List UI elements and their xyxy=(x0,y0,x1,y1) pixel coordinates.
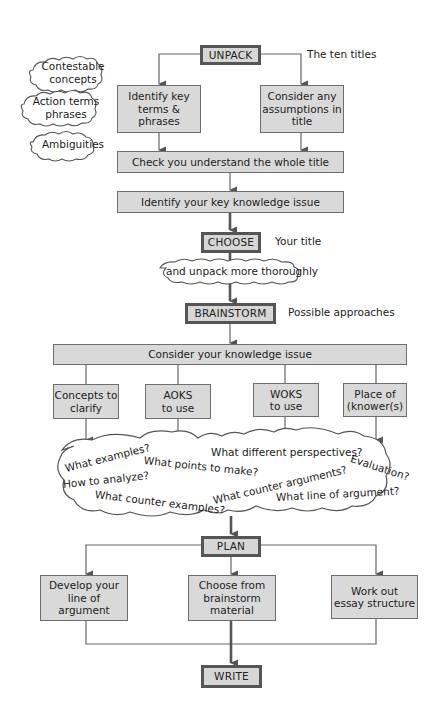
write-box: WRITE xyxy=(201,665,262,688)
develop-line2: line of argument xyxy=(41,592,127,617)
consider-assumptions-line1: Consider any xyxy=(268,90,337,103)
place-line2: (knower(s) xyxy=(347,400,403,413)
choose-note: Your title xyxy=(275,235,321,247)
identify-key-terms-line1: Identify key xyxy=(128,90,189,103)
woks-line1: WOKS xyxy=(270,388,302,401)
identify-key-terms-line3: phrases xyxy=(138,115,179,128)
consider-assumptions-line2: assumptions in xyxy=(262,103,341,116)
side-cloud-ambiguities: Ambiguities xyxy=(37,138,109,150)
side-cloud-contestable: Contestable concepts xyxy=(37,60,109,86)
essay-structure-line2: essay structure xyxy=(334,597,415,610)
brainstorm-note: Possible approaches xyxy=(288,306,395,318)
brainstorm-label: BRAINSTORM xyxy=(195,307,267,320)
choose-box: CHOOSE xyxy=(201,232,261,253)
write-label: WRITE xyxy=(214,670,249,683)
aoks-line1: AOKS xyxy=(164,389,193,402)
concepts-to-clarify-box: Concepts to clarify xyxy=(53,384,119,419)
aoks-box: AOKS to use xyxy=(145,384,211,419)
consider-knowledge-issue-box: Consider your knowledge issue xyxy=(53,344,407,365)
woks-box: WOKS to use xyxy=(253,383,319,417)
check-understand-box: Check you understand the whole title xyxy=(117,151,344,173)
choose-from-line2: brainstorm xyxy=(203,592,260,605)
identify-key-terms-box: Identify key terms & phrases xyxy=(117,85,201,133)
aoks-line2: to use xyxy=(162,402,194,415)
plan-label: PLAN xyxy=(217,540,245,553)
concepts-line2: clarify xyxy=(70,402,102,415)
unpack-note: The ten titles xyxy=(307,48,376,60)
concepts-line1: Concepts to xyxy=(55,389,118,402)
side-cloud-action-line1: Action terms xyxy=(28,95,104,108)
side-cloud-contestable-line1: Contestable xyxy=(37,60,109,73)
side-cloud-action-line2: phrases xyxy=(28,108,104,121)
consider-assumptions-box: Consider any assumptions in title xyxy=(260,85,344,133)
brainstorm-box: BRAINSTORM xyxy=(185,303,276,324)
essay-structure-box: Work out essay structure xyxy=(331,575,418,619)
develop-argument-box: Develop your line of argument xyxy=(40,575,128,621)
side-cloud-contestable-line2: concepts xyxy=(37,73,109,86)
side-cloud-action-terms: Action terms phrases xyxy=(28,95,104,121)
plan-box: PLAN xyxy=(201,536,261,557)
identify-key-terms-line2: terms & xyxy=(138,103,180,116)
identify-knowledge-issue-label: Identify your key knowledge issue xyxy=(141,196,320,209)
place-line1: Place of xyxy=(354,388,395,401)
consider-knowledge-issue-label: Consider your knowledge issue xyxy=(148,348,312,361)
place-of-knowers-box: Place of (knower(s) xyxy=(343,383,407,417)
q-different-perspectives: What different perspectives? xyxy=(211,446,362,458)
develop-line1: Develop your xyxy=(49,579,119,592)
check-understand-label: Check you understand the whole title xyxy=(132,156,329,169)
choose-from-line3: material xyxy=(210,604,254,617)
choose-from-brainstorm-box: Choose from brainstorm material xyxy=(188,575,276,621)
essay-structure-line1: Work out xyxy=(351,585,398,598)
consider-assumptions-line3: title xyxy=(292,115,313,128)
choose-label: CHOOSE xyxy=(208,236,254,249)
woks-line2: to use xyxy=(270,400,302,413)
unpack-box: UNPACK xyxy=(200,45,261,65)
unpack-more-cloud-text: and unpack more thoroughly xyxy=(166,265,318,277)
unpack-label: UNPACK xyxy=(209,49,253,62)
choose-from-line1: Choose from xyxy=(199,579,266,592)
identify-knowledge-issue-box: Identify your key knowledge issue xyxy=(117,191,344,213)
